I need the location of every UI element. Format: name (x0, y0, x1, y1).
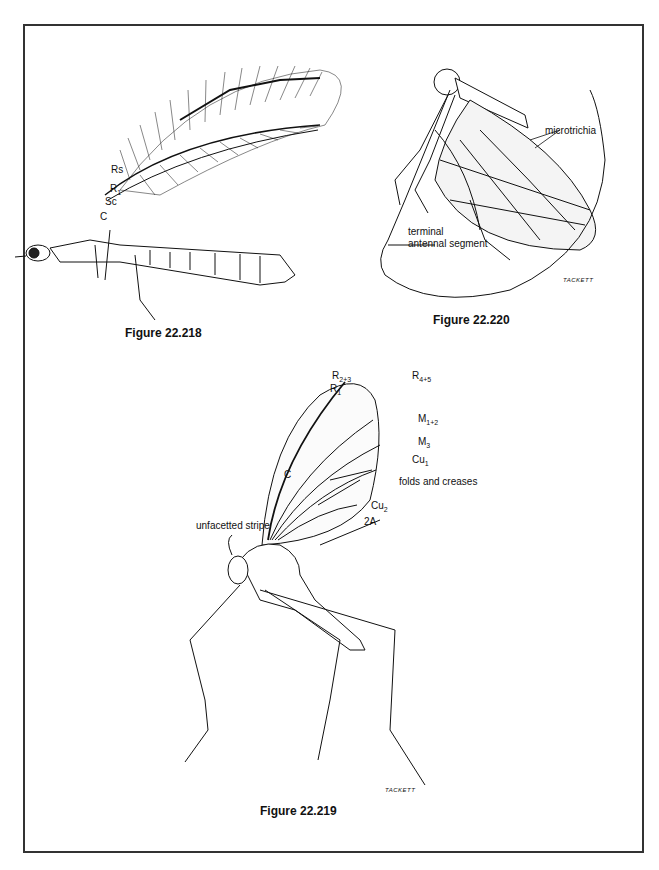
figure-220-drawing (381, 69, 605, 297)
label-cu1: Cu1 (412, 454, 429, 467)
label-cu2: Cu2 (371, 500, 388, 513)
label-r45: R4+5 (412, 370, 431, 383)
label-cu1-sub: 1 (425, 460, 429, 467)
caption-figure-22-220: Figure 22.220 (433, 313, 510, 327)
label-r1-sub-219: 1 (337, 389, 341, 396)
label-terminal: terminal (408, 226, 444, 237)
label-c-219: C (284, 469, 291, 480)
label-m3: M3 (418, 436, 430, 449)
label-m3-sub: 3 (426, 442, 430, 449)
label-sc: Sc (105, 196, 117, 207)
label-m12-sub: 1+2 (426, 419, 438, 426)
signature-219: TACKETT (385, 787, 415, 793)
label-unfacetted-stripe: unfacetted stripe (196, 520, 270, 531)
label-2a: 2A (364, 516, 376, 527)
label-folds-creases: folds and creases (399, 476, 477, 487)
label-r45-sub: 4+5 (419, 376, 431, 383)
label-r23-sub: 2+3 (339, 376, 351, 383)
label-r1: R1 (110, 183, 121, 196)
caption-figure-22-218: Figure 22.218 (125, 326, 202, 340)
label-r23: R2+3 (332, 370, 351, 383)
caption-figure-22-219: Figure 22.219 (260, 804, 337, 818)
label-microtrichia: microtrichia (545, 125, 596, 136)
label-rs: Rs (111, 164, 123, 175)
label-cu2-sub: 2 (384, 506, 388, 513)
label-r1: R1 (330, 383, 341, 396)
label-r1-sub: 1 (117, 189, 121, 196)
label-cu1-text: Cu (412, 454, 425, 465)
figure-219-drawing (185, 382, 425, 785)
label-m12: M1+2 (418, 413, 438, 426)
label-antennal-segment: antennal segment (408, 238, 488, 249)
label-c: C (100, 211, 107, 222)
figure-218-drawing (15, 66, 341, 320)
signature-220: TACKETT (563, 277, 593, 283)
label-cu2-text: Cu (371, 500, 384, 511)
